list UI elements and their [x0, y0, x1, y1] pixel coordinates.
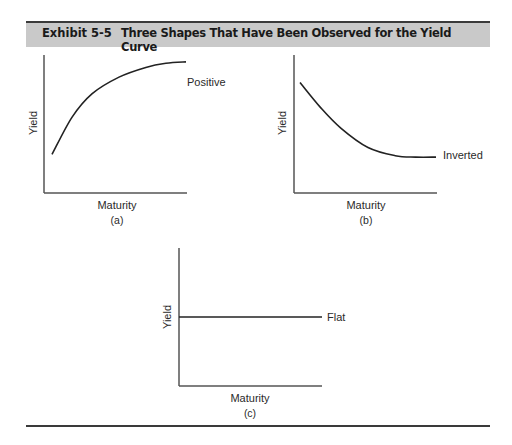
panel-label: (b): [360, 214, 373, 226]
panel-a: Positive Yield Maturity (a): [27, 55, 226, 226]
y-axis-label: Yield: [161, 305, 173, 329]
panel-b: Inverted Yield Maturity (b): [276, 55, 483, 226]
curve-label: Flat: [327, 311, 345, 323]
x-axis-label: Maturity: [346, 199, 386, 211]
curve-positive: [52, 62, 186, 154]
bottom-rule: [26, 425, 490, 427]
panel-label: (a): [111, 214, 124, 226]
y-axis-label: Yield: [27, 111, 39, 135]
panel-label: (c): [244, 407, 256, 419]
panel-c: Flat Yield Maturity (c): [161, 248, 345, 419]
curve-label: Inverted: [443, 149, 483, 161]
curve-label: Positive: [187, 76, 226, 88]
curve-inverted: [300, 83, 436, 158]
x-axis-label: Maturity: [97, 199, 137, 211]
x-axis-label: Maturity: [230, 392, 270, 404]
y-axis-label: Yield: [276, 111, 288, 135]
yield-curve-figure: Positive Yield Maturity (a) Inverted Yie…: [0, 0, 512, 445]
